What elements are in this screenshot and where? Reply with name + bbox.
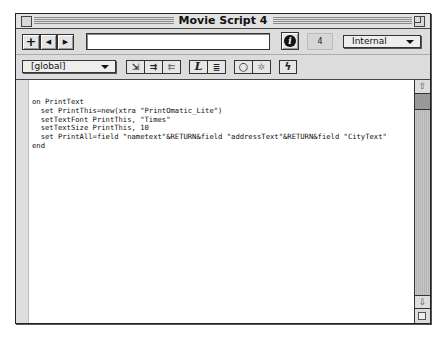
previous-script-button[interactable]: ◀ (40, 34, 57, 50)
go-to-handler-button[interactable]: ⇲ (126, 60, 145, 74)
info-button[interactable]: i (281, 32, 299, 50)
cast-select[interactable]: Internal (343, 35, 421, 48)
alphabetical-lingo-button[interactable]: L (189, 60, 208, 74)
script-editor[interactable]: on PrintText set PrintThis=new(xtra "Pri… (29, 80, 414, 323)
scroll-track[interactable] (415, 110, 430, 295)
next-script-button[interactable]: ▶ (57, 34, 74, 50)
categorized-lingo-button[interactable]: ≣ (207, 60, 226, 74)
comment-button[interactable]: ⇉ (144, 60, 163, 74)
lingo-l-icon: L (195, 60, 203, 73)
script-content: on PrintText set PrintThis=new(xtra "Pri… (16, 80, 430, 323)
uncomment-icon: ⇇ (168, 62, 176, 72)
toggle-breakpoint-button[interactable]: ○ (234, 60, 253, 74)
watch-icon: ✲ (258, 62, 266, 72)
recompile-button[interactable]: ϟ (279, 60, 297, 74)
script-code[interactable]: on PrintText set PrintThis=new(xtra "Pri… (32, 98, 387, 151)
breakpoint-circle-icon: ○ (239, 60, 249, 73)
lightning-icon: ϟ (284, 60, 291, 73)
title-bar[interactable]: Movie Script 4 (16, 14, 430, 29)
toolbar-bottom: [global] ⇲ ⇉ ⇇ L ≣ ○ ✲ ϟ (16, 55, 430, 80)
scroll-up-arrow-icon[interactable]: ⇧ (415, 80, 430, 94)
scroll-thumb[interactable] (415, 94, 430, 110)
info-icon: i (284, 35, 296, 47)
chevron-down-icon (406, 40, 414, 44)
zoom-box[interactable] (414, 16, 425, 27)
list-icon: ≣ (213, 62, 221, 72)
cast-select-value: Internal (352, 36, 387, 46)
go-to-handler-icon: ⇲ (132, 62, 140, 72)
handler-select[interactable]: [global] (22, 60, 116, 73)
comment-icon: ⇉ (150, 62, 158, 72)
breakpoint-gutter[interactable] (16, 80, 29, 323)
uncomment-button[interactable]: ⇇ (162, 60, 181, 74)
script-window: Movie Script 4 + ◀ ▶ i 4 Internal [globa… (15, 13, 431, 324)
resize-grip-icon[interactable] (415, 309, 430, 323)
toolbar-top: + ◀ ▶ i 4 Internal (16, 29, 430, 55)
scroll-down-arrow-icon[interactable]: ⇩ (415, 295, 430, 309)
chevron-down-icon (101, 65, 109, 69)
script-name-field[interactable] (86, 33, 270, 50)
watch-expression-button[interactable]: ✲ (252, 60, 271, 74)
new-script-button[interactable]: + (22, 34, 40, 50)
handler-select-value: [global] (31, 61, 65, 71)
vertical-scrollbar[interactable]: ⇧ ⇩ (414, 80, 430, 323)
cast-member-number: 4 (307, 33, 333, 50)
window-title: Movie Script 4 (174, 14, 273, 27)
